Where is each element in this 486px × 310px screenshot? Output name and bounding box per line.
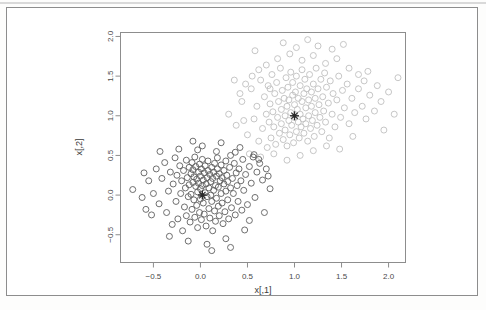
page-root: −0.50.00.51.01.52.0 −0.50.00.51.01.52.0 … <box>0 0 486 310</box>
scatter-point <box>223 236 229 242</box>
scatter-point <box>273 141 279 147</box>
scatter-point <box>339 87 345 93</box>
scatter-point <box>183 157 189 163</box>
scatter-point <box>297 83 303 89</box>
x-axis-title: x[,1] <box>254 285 271 295</box>
scatter-point <box>207 215 213 221</box>
scatter-point <box>219 200 225 206</box>
y-tick-label: 0.5 <box>107 149 116 161</box>
y-tick-label: 1.5 <box>107 70 116 82</box>
y-axis-title: x[,2] <box>74 138 84 155</box>
scatter-point <box>252 48 258 54</box>
x-tick-label: 1.0 <box>289 272 301 281</box>
y-tick-label: 2.0 <box>107 30 116 42</box>
scatter-point <box>299 99 305 105</box>
scatter-point <box>355 86 361 92</box>
scatter-point <box>244 202 250 208</box>
scatter-point <box>209 248 215 254</box>
scatter-point <box>309 118 315 124</box>
scatter-point <box>210 228 216 234</box>
plot-box-border <box>121 33 406 263</box>
scatter-point <box>306 97 312 103</box>
cluster-centroid <box>290 111 299 120</box>
scatter-point <box>175 216 181 222</box>
scatter-point <box>223 158 229 164</box>
scatter-point <box>371 108 377 114</box>
scatter-point <box>327 78 333 84</box>
scatter-point <box>242 227 248 233</box>
scatter-point <box>323 119 329 125</box>
scatter-point <box>269 72 275 78</box>
scatter-point <box>312 95 318 101</box>
scatter-point <box>319 129 325 135</box>
scatter-point <box>338 114 344 120</box>
scatter-point <box>190 138 196 144</box>
scatter-point <box>334 56 340 62</box>
scatter-point <box>159 175 165 181</box>
x-tick-label: −0.5 <box>146 272 162 281</box>
scatter-point <box>218 140 224 146</box>
scatter-point <box>194 202 200 208</box>
scatter-point <box>275 56 281 62</box>
scatter-point <box>231 160 237 166</box>
scatter-point <box>268 135 274 141</box>
scatter-point <box>195 225 201 231</box>
scatter-point <box>257 160 263 166</box>
scatter-point <box>283 75 289 81</box>
scatter-point <box>172 155 178 161</box>
scatter-point <box>303 105 309 111</box>
scatter-point <box>146 178 152 184</box>
scatter-point <box>336 73 342 79</box>
scatter-point <box>220 221 226 227</box>
scatter-point <box>216 213 222 219</box>
scatter-point <box>248 180 254 186</box>
scatter-point <box>299 57 305 63</box>
scatter-point <box>315 86 321 92</box>
scatter-point <box>326 135 332 141</box>
scatter-point <box>153 166 159 172</box>
scatter-point <box>246 164 252 170</box>
scatter-point <box>178 191 184 197</box>
scatter-point <box>183 213 189 219</box>
scatter-point <box>228 244 234 250</box>
scatter-point <box>213 195 219 201</box>
scatter-point <box>192 154 198 160</box>
scatter-point <box>302 76 308 82</box>
scatter-point <box>312 110 318 116</box>
scatter-point <box>139 194 145 200</box>
scatter-point <box>213 148 219 154</box>
scatter-point <box>284 143 290 149</box>
scatter-point <box>150 191 156 197</box>
scatter-point <box>181 204 187 210</box>
scatter-point <box>278 106 284 112</box>
scatter-point <box>378 99 384 105</box>
scatter-point <box>350 133 356 139</box>
scatter-point <box>241 118 247 124</box>
scatter-point <box>315 43 321 49</box>
scatter-point <box>249 73 255 79</box>
scatter-point <box>301 130 307 136</box>
scatter-point <box>287 132 293 138</box>
scatter-point <box>130 187 136 193</box>
scatter-point <box>355 72 361 78</box>
scatter-point <box>311 133 317 139</box>
scatter-plot-figure: −0.50.00.51.01.52.0 −0.50.00.51.01.52.0 … <box>0 0 486 310</box>
scatter-point <box>165 188 171 194</box>
scatter-point <box>251 116 257 122</box>
scatter-point <box>305 138 311 144</box>
scatter-point <box>323 143 329 149</box>
scatter-point <box>266 119 272 125</box>
scatter-point <box>263 62 269 68</box>
scatter-point <box>284 103 290 109</box>
scatter-point <box>198 217 204 223</box>
scatter-point <box>308 103 314 109</box>
scatter-point <box>310 81 316 87</box>
scatter-point <box>229 175 235 181</box>
scatter-point <box>308 125 314 131</box>
cluster-centroid <box>198 191 207 200</box>
y-tick-label: 0.0 <box>107 189 116 201</box>
scatter-point <box>363 116 369 122</box>
scatter-point <box>308 89 314 95</box>
scatter-point <box>277 65 283 71</box>
scatter-point <box>239 207 245 213</box>
